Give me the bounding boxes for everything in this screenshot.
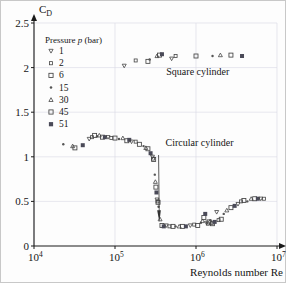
data-point-marker	[160, 52, 164, 56]
data-point-marker	[49, 122, 53, 126]
data-point-marker	[174, 55, 177, 58]
legend-item-6[interactable]: 6	[49, 70, 64, 80]
legend-item-label: 45	[59, 107, 69, 117]
data-point-marker	[211, 55, 213, 57]
y-tick-label: 1	[24, 151, 30, 163]
data-point-marker	[203, 212, 207, 216]
legend-item-2[interactable]: 2	[49, 58, 64, 68]
data-point-marker	[170, 57, 174, 61]
data-point-marker	[149, 151, 153, 155]
data-point-marker	[215, 211, 219, 215]
data-point-marker	[50, 86, 53, 89]
data-point-marker	[148, 58, 150, 60]
legend-item-15[interactable]: 15	[50, 83, 69, 93]
data-point-marker	[137, 142, 141, 146]
legend-item-1[interactable]: 1	[49, 46, 64, 56]
legend-item-label: 30	[59, 95, 69, 105]
data-point-marker	[193, 223, 196, 226]
data-point-marker	[122, 64, 126, 68]
y-axis-arrowhead	[31, 14, 37, 21]
x-tick-label: 104	[28, 250, 43, 263]
legend-item-label: 15	[59, 83, 69, 93]
y-axis-title: CD	[39, 3, 52, 18]
series-circular-cylinder	[62, 133, 265, 228]
data-point-marker	[49, 73, 53, 77]
data-point-marker	[188, 224, 192, 228]
data-point-marker	[49, 62, 52, 65]
data-point-marker	[134, 59, 137, 62]
data-point-marker	[118, 138, 120, 140]
data-point-marker	[154, 185, 158, 189]
y-tick-label: 1.5	[15, 106, 29, 118]
data-point-marker	[218, 53, 222, 57]
x-axis-ticks: 104105106107	[28, 246, 286, 263]
y-axis-ticks: 00.511.522.5	[15, 17, 34, 252]
x-tick-label: 107	[271, 250, 286, 263]
data-point-marker	[168, 225, 171, 228]
legend-item-label: 1	[59, 46, 64, 56]
data-point-marker	[229, 206, 233, 210]
data-point-marker	[213, 220, 217, 224]
data-point-marker	[154, 173, 156, 175]
data-point-marker	[229, 53, 233, 57]
data-point-marker	[196, 223, 200, 227]
data-point-marker	[142, 145, 144, 147]
data-point-marker	[134, 140, 137, 143]
data-point-marker	[246, 200, 248, 202]
data-point-marker	[174, 225, 176, 227]
square-cylinder-label: Square cylinder	[166, 66, 230, 77]
x-axis-arrowhead	[279, 243, 286, 249]
legend-item-label: 2	[59, 58, 64, 68]
data-point-marker	[49, 49, 53, 53]
data-point-marker	[184, 224, 188, 228]
legend-item-label: 6	[59, 70, 64, 80]
y-tick-label: 2	[24, 62, 30, 74]
data-point-marker	[153, 180, 157, 184]
legend-item-label: 51	[59, 119, 69, 129]
data-point-marker	[171, 224, 175, 228]
data-point-marker	[62, 143, 64, 145]
legend-title: Pressure p (bar)	[45, 35, 102, 45]
data-point-marker	[240, 54, 244, 58]
x-tick-label: 105	[109, 250, 124, 263]
x-tick-label: 106	[190, 250, 205, 263]
data-point-marker	[49, 98, 53, 102]
data-point-marker	[233, 204, 237, 208]
y-tick-label: 0.5	[15, 195, 29, 207]
y-tick-label: 2.5	[15, 17, 29, 29]
data-point-marker	[130, 140, 134, 144]
data-point-marker	[81, 143, 85, 147]
data-point-marker	[110, 137, 113, 140]
legend-item-30[interactable]: 30	[49, 95, 69, 105]
data-point-marker	[223, 213, 225, 215]
x-axis-title: Reynolds number Re	[190, 266, 283, 278]
data-point-marker	[154, 190, 158, 194]
chart-svg: 00.511.522.5104105106107CDReynolds numbe…	[1, 1, 286, 283]
data-point-marker	[225, 208, 229, 212]
figure-container: 00.511.522.5104105106107CDReynolds numbe…	[0, 0, 286, 283]
circular-cylinder-label: Circular cylinder	[165, 137, 234, 148]
legend-item-51[interactable]: 51	[49, 119, 69, 129]
data-point-marker	[121, 136, 125, 140]
legend: Pressure p (bar)12615304551	[45, 35, 102, 129]
